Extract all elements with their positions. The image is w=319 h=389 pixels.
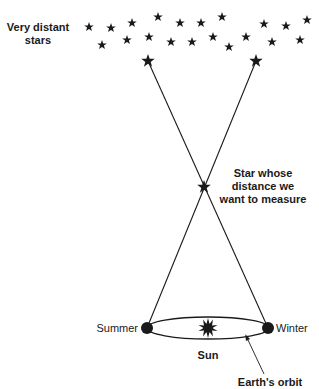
distant-star-icon [127, 18, 137, 27]
earth-summer-dot [141, 322, 153, 334]
distant-stars-label-line2: stars [25, 34, 51, 46]
sun-icon [199, 318, 218, 338]
reference-star-left-icon [141, 54, 154, 67]
distant-stars-field [84, 12, 312, 51]
reference-star-right-icon [249, 54, 262, 67]
distant-star-icon [208, 32, 218, 41]
distant-stars-label-line1: Very distant [7, 21, 70, 33]
earth-winter-dot [262, 322, 274, 334]
sun-label: Sun [198, 349, 219, 361]
orbit-pointer-arrow [248, 340, 264, 374]
distant-star-icon [295, 35, 305, 44]
reference-stars [141, 54, 262, 67]
distant-star-icon [175, 18, 185, 27]
earth-orbit-label: Earth's orbit [238, 376, 303, 388]
distant-star-icon [196, 18, 206, 27]
distant-star-icon [144, 32, 154, 41]
distant-star-icon [106, 23, 116, 32]
target-star-icon [197, 180, 210, 193]
target-star-label-line2: distance we [232, 180, 294, 192]
distant-star-icon [259, 19, 269, 28]
distant-star-icon [84, 22, 94, 31]
distant-star-icon [166, 37, 176, 46]
distant-star-icon [187, 37, 197, 46]
distant-star-icon [224, 42, 234, 51]
target-star-label-line3: want to measure [219, 193, 307, 205]
distant-star-icon [217, 12, 227, 21]
distant-star-icon [97, 40, 107, 49]
distant-star-icon [281, 21, 291, 30]
summer-label: Summer [96, 322, 138, 334]
distant-star-icon [267, 37, 277, 46]
distant-star-icon [302, 15, 312, 24]
winter-label: Winter [276, 322, 308, 334]
parallax-diagram: Very distant stars Star whose distance w… [0, 0, 319, 389]
target-star-label-line1: Star whose [234, 167, 293, 179]
distant-star-icon [122, 35, 132, 44]
distant-star-icon [241, 32, 251, 41]
distant-star-icon [153, 12, 163, 21]
